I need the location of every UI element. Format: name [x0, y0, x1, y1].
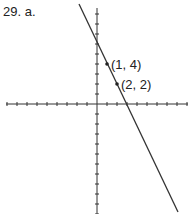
axes: [6, 8, 188, 214]
coordinate-graph: [0, 0, 192, 214]
graph-line: [79, 4, 178, 212]
point-label-1-4: (1, 4): [111, 57, 141, 72]
point-marker: [115, 82, 119, 86]
axis-ticks: [7, 14, 187, 214]
point-marker: [105, 62, 109, 66]
point-label-2-2: (2, 2): [121, 77, 151, 92]
